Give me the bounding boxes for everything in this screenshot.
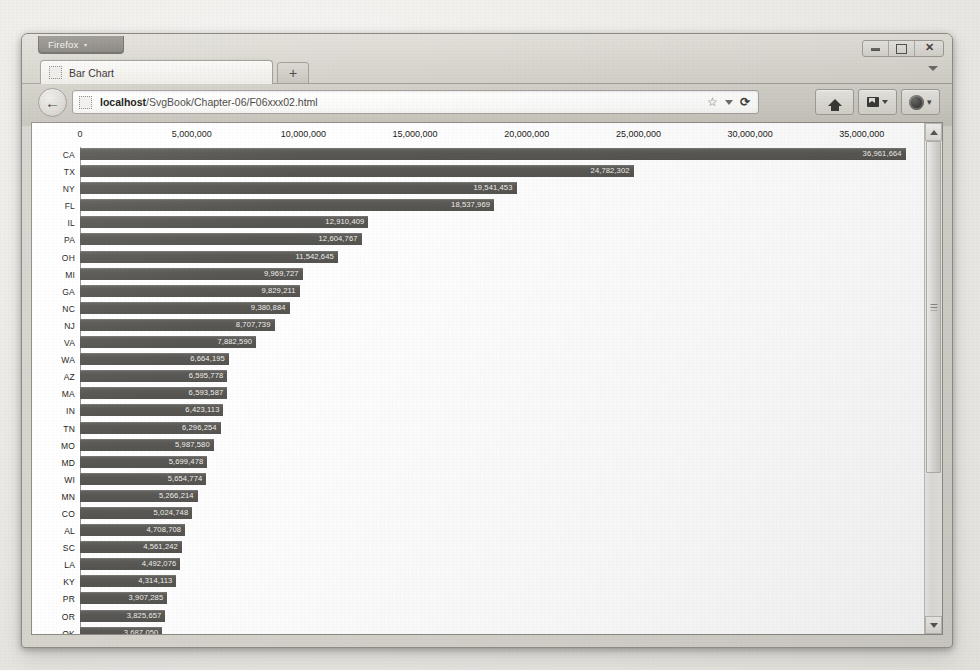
chart-bar[interactable]: 8,707,739	[80, 319, 275, 331]
chevron-down-icon: ▾	[927, 98, 932, 107]
vertical-scrollbar[interactable]	[924, 123, 942, 634]
chart-row: MO5,987,580	[32, 438, 925, 455]
y-axis-tick-label: GA	[32, 286, 75, 298]
chart-bar[interactable]: 6,296,254	[80, 422, 221, 434]
address-bar[interactable]: localhost/SvgBook/Chapter-06/F06xxx02.ht…	[72, 90, 759, 114]
library-button[interactable]	[858, 89, 897, 115]
chart-bar[interactable]: 5,987,580	[80, 439, 214, 451]
y-axis-tick-label: CO	[32, 508, 75, 520]
y-axis-tick-label: AL	[32, 525, 75, 537]
chart-row: CA36,961,664	[32, 147, 925, 164]
chart-bar[interactable]: 6,593,587	[80, 387, 227, 399]
y-axis-tick-label: PA	[32, 234, 75, 246]
bookmark-star-icon[interactable]: ☆	[707, 96, 718, 108]
x-axis-tick-label: 5,000,000	[172, 129, 212, 139]
scrollbar-thumb[interactable]	[926, 141, 941, 473]
bar-value-label: 5,024,748	[154, 507, 189, 519]
chart-row: TN6,296,254	[32, 421, 925, 438]
new-tab-button[interactable]: +	[277, 62, 309, 84]
chart-bar[interactable]: 36,961,664	[80, 148, 906, 160]
y-axis-tick-label: WA	[32, 354, 75, 366]
chevron-down-icon[interactable]	[725, 100, 733, 105]
chart-bar[interactable]: 4,708,708	[80, 524, 185, 536]
address-bar-actions: ☆ ⟳	[707, 96, 752, 108]
y-axis-tick-label: AZ	[32, 371, 75, 383]
chart-bar[interactable]: 4,492,076	[80, 558, 180, 570]
y-axis-tick-label: MD	[32, 457, 75, 469]
maximize-icon	[896, 44, 907, 54]
tab-bar-chart[interactable]: Bar Chart	[40, 60, 273, 84]
chart-bar[interactable]: 9,969,727	[80, 268, 303, 280]
chart-row: FL18,537,969	[32, 198, 925, 215]
maximize-button[interactable]	[889, 41, 915, 56]
chart-row: MI9,969,727	[32, 267, 925, 284]
chart-bar[interactable]: 9,829,211	[80, 285, 300, 297]
chart-bar[interactable]: 4,314,113	[80, 575, 176, 587]
chart-bar[interactable]: 5,024,748	[80, 507, 192, 519]
x-axis-tick-label: 30,000,000	[728, 129, 773, 139]
y-axis-tick-label: NJ	[32, 320, 75, 332]
url-host: localhost	[100, 96, 146, 108]
chart-row: MA6,593,587	[32, 386, 925, 403]
chart-bar[interactable]: 12,910,409	[80, 216, 368, 228]
chart-bar[interactable]: 6,664,195	[80, 353, 229, 365]
chart-bar[interactable]: 11,542,645	[80, 251, 338, 263]
x-axis-tick-label: 20,000,000	[504, 129, 549, 139]
back-arrow-icon: ←	[45, 95, 60, 110]
y-axis-tick-label: NY	[32, 183, 75, 195]
bar-value-label: 5,654,774	[168, 473, 203, 485]
chart-row: TX24,782,302	[32, 164, 925, 181]
scroll-down-button[interactable]	[925, 616, 942, 634]
url-text: localhost/SvgBook/Chapter-06/F06xxx02.ht…	[100, 96, 318, 108]
bar-value-label: 9,969,727	[264, 268, 299, 280]
home-button[interactable]	[815, 89, 854, 115]
account-button[interactable]: ▾	[901, 89, 940, 115]
chart-bar[interactable]: 4,561,242	[80, 541, 182, 553]
list-all-tabs-icon[interactable]	[928, 66, 938, 71]
chart-bar[interactable]: 6,595,778	[80, 370, 227, 382]
chart-row: MD5,699,478	[32, 455, 925, 472]
back-button[interactable]: ←	[38, 88, 67, 117]
chart-row: IL12,910,409	[32, 215, 925, 232]
chart-row: MN5,266,214	[32, 489, 925, 506]
bar-value-label: 3,825,657	[127, 610, 162, 622]
chart-row: PA12,604,767	[32, 232, 925, 249]
minimize-button[interactable]	[863, 41, 889, 56]
chart-bar[interactable]: 24,782,302	[80, 165, 634, 177]
toolbar-buttons: ▾	[815, 89, 940, 115]
chart-row: VA7,882,590	[32, 335, 925, 352]
chart-bar[interactable]: 5,654,774	[80, 473, 206, 485]
reload-icon[interactable]: ⟳	[740, 96, 750, 108]
y-axis-tick-label: PR	[32, 593, 75, 605]
orb-icon	[909, 95, 924, 110]
chart-row: PR3,907,285	[32, 591, 925, 608]
y-axis-tick-label: OR	[32, 611, 75, 623]
y-axis-tick-label: VA	[32, 337, 75, 349]
page-favicon-icon	[49, 66, 62, 79]
home-icon	[828, 99, 842, 106]
chart-bar[interactable]: 7,882,590	[80, 336, 256, 348]
bar-chart: 05,000,00010,000,00015,000,00020,000,000…	[32, 123, 925, 634]
firefox-menu-button[interactable]: Firefox ▾	[38, 36, 124, 54]
chart-bar[interactable]: 6,423,113	[80, 404, 223, 416]
chart-bar[interactable]: 3,907,285	[80, 592, 167, 604]
bar-value-label: 3,907,285	[129, 592, 164, 604]
new-tab-label: +	[289, 66, 297, 80]
bar-value-label: 19,541,453	[473, 182, 512, 194]
bar-value-label: 9,829,211	[261, 285, 295, 297]
chart-bar[interactable]: 3,687,050	[80, 627, 162, 634]
close-button[interactable]: ✕	[915, 41, 943, 56]
chart-bar[interactable]: 19,541,453	[80, 182, 517, 194]
bar-value-label: 6,296,254	[182, 422, 217, 434]
chart-bar[interactable]: 9,380,884	[80, 302, 290, 314]
chart-bar[interactable]: 12,604,767	[80, 233, 362, 245]
chart-row: GA9,829,211	[32, 284, 925, 301]
chart-bar[interactable]: 3,825,657	[80, 610, 165, 622]
scroll-up-button[interactable]	[925, 123, 942, 141]
bar-value-label: 4,561,242	[143, 541, 178, 553]
chart-bar[interactable]: 5,699,478	[80, 456, 207, 468]
chart-bar[interactable]: 5,266,214	[80, 490, 198, 502]
chart-row: WI5,654,774	[32, 472, 925, 489]
chart-row: OH11,542,645	[32, 250, 925, 267]
chart-bar[interactable]: 18,537,969	[80, 199, 494, 211]
